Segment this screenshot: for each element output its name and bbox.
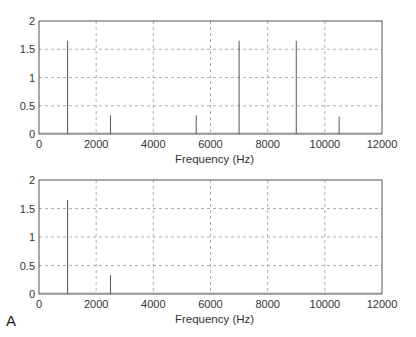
x-tick-label: 10000 <box>310 298 341 310</box>
bottom-spectrum-chart: 00.511.52020004000600080001000012000Freq… <box>0 160 416 337</box>
grid-lines <box>39 21 382 134</box>
x-tick-label: 12000 <box>367 298 398 310</box>
y-tick-label: 1 <box>29 72 35 84</box>
x-tick-label: 8000 <box>255 298 279 310</box>
x-tick-label: 0 <box>36 298 42 310</box>
y-tick-label: 0 <box>29 128 35 140</box>
x-tick-label: 4000 <box>141 298 165 310</box>
top-spectrum-plot: 00.511.52020004000600080001000012000Freq… <box>0 0 416 170</box>
y-tick-label: 0.5 <box>20 100 35 112</box>
x-tick-label: 6000 <box>198 298 222 310</box>
x-tick-label: 2000 <box>84 298 108 310</box>
y-tick-label: 1.5 <box>20 203 35 215</box>
x-axis-label: Frequency (Hz) <box>175 313 254 325</box>
x-tick-label: 2000 <box>84 138 108 150</box>
y-tick-label: 0.5 <box>20 260 35 272</box>
x-tick-label: 12000 <box>367 138 398 150</box>
y-tick-label: 2 <box>29 15 35 27</box>
top-spectrum-chart: 00.511.52020004000600080001000012000Freq… <box>0 0 416 170</box>
x-tick-label: 8000 <box>255 138 279 150</box>
grid-lines <box>39 180 382 294</box>
y-tick-label: 1.5 <box>20 43 35 55</box>
x-tick-label: 6000 <box>198 138 222 150</box>
x-tick-label: 4000 <box>141 138 165 150</box>
bottom-spectrum-plot: 00.511.52020004000600080001000012000Freq… <box>0 160 416 337</box>
x-tick-label: 10000 <box>310 138 341 150</box>
y-tick-label: 1 <box>29 231 35 243</box>
panel-label: A <box>6 312 16 329</box>
x-tick-label: 0 <box>36 138 42 150</box>
y-tick-label: 0 <box>29 288 35 300</box>
y-tick-label: 2 <box>29 174 35 186</box>
